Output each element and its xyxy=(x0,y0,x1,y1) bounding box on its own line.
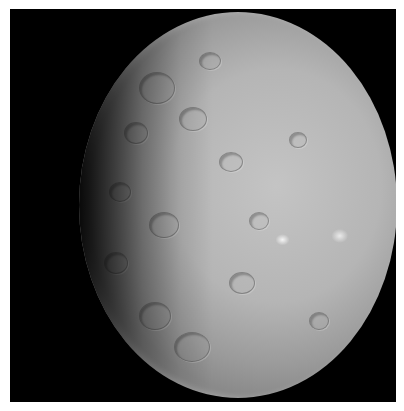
space-background xyxy=(10,9,396,402)
terminator-shadow xyxy=(79,12,396,398)
planet-disk xyxy=(79,12,396,398)
